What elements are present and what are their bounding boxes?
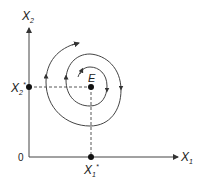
x1-star-label: X1* [83, 163, 99, 178]
x2-star-point [26, 84, 32, 90]
origin-label: 0 [18, 152, 24, 163]
x1-star-point [88, 154, 94, 160]
x2-star-label: X2* [10, 81, 26, 96]
y-axis-label: X2 [21, 9, 34, 24]
spiral-trajectory [46, 43, 121, 126]
x-axis-label: X1 [180, 150, 193, 165]
equilibrium-label: E [88, 72, 96, 84]
equilibrium-point [88, 84, 94, 90]
phase-plane-diagram: X2 X1 0 E X2* X1* [0, 0, 199, 182]
